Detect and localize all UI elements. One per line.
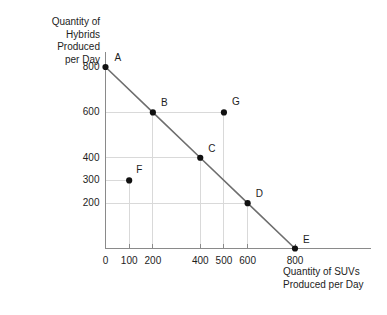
y-tick-600: 600 [60,106,100,117]
data-point-f [126,177,132,183]
ppf-chart: Quantity of Hybrids Produced per Day Qua… [0,0,387,315]
x-axis-title: Quantity of SUVs Produced per Day [283,266,383,291]
y-tick-200: 200 [60,197,100,208]
data-point-d [245,200,251,206]
data-point-g [221,109,227,115]
x-tick-800: 800 [275,255,315,266]
data-point-c [197,155,203,161]
point-label-g: G [232,96,240,107]
x-tick-600: 600 [228,255,268,266]
data-point-a [102,64,108,70]
axes-group [106,52,372,249]
x-tick-200: 200 [133,255,173,266]
y-tick-400: 400 [60,152,100,163]
point-label-b: B [161,97,168,108]
y-tick-300: 300 [60,174,100,185]
point-label-a: A [115,52,122,63]
y-tick-800: 800 [60,61,100,72]
point-label-d: D [256,188,263,199]
y-axis-title: Quantity of Hybrids Produced per Day [8,16,100,66]
point-label-c: C [208,143,215,154]
data-point-e [292,245,298,251]
point-label-e: E [303,234,310,245]
data-point-b [150,109,156,115]
point-label-f: F [136,164,142,175]
